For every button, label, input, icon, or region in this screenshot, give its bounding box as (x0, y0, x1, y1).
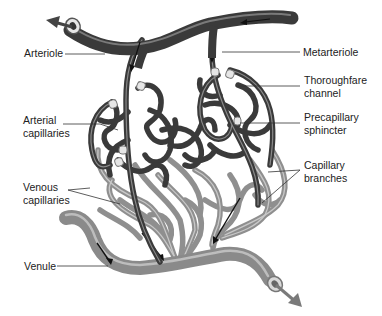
label-capillary-branches-line2: branches (304, 172, 347, 185)
label-capillary-branches-line1: Capillary (304, 159, 347, 172)
label-arterial-caps-line1: Arterial (23, 114, 70, 127)
label-precapillary-sphincter: Precapillary sphincter (304, 111, 359, 136)
label-arteriole: Arteriole (24, 47, 63, 60)
label-thoroughfare-channel: Thoroughfare channel (304, 74, 367, 99)
label-arterial-capillaries: Arterial capillaries (23, 114, 70, 139)
label-thoroughfare-line2: channel (304, 87, 367, 100)
label-arterial-caps-line2: capillaries (23, 127, 70, 140)
label-capillary-branches: Capillary branches (304, 159, 347, 184)
label-venous-capillaries: Venous capillaries (23, 181, 70, 206)
label-thoroughfare-line1: Thoroughfare (304, 74, 367, 87)
sphincter-7 (234, 117, 241, 125)
label-metarteriole: Metarteriole (303, 46, 358, 59)
arteriole-arrow-head (46, 16, 60, 28)
sphincter-5 (211, 68, 219, 76)
label-venous-caps-line1: Venous (23, 181, 70, 194)
label-precapillary-line1: Precapillary (304, 111, 359, 124)
sphincter-3 (119, 146, 127, 154)
label-venous-caps-line2: capillaries (23, 194, 70, 207)
label-precapillary-line2: sphincter (304, 124, 359, 137)
label-venule: Venule (24, 260, 56, 273)
arteriole (46, 14, 292, 72)
